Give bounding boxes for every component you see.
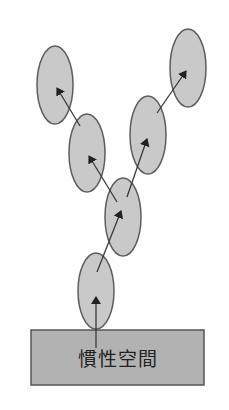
node-ellipse-n6 xyxy=(170,29,206,107)
node-ellipse-n4 xyxy=(37,46,73,124)
inertial-space-label: 慣性空間 xyxy=(31,330,204,385)
node-ellipse-n2 xyxy=(105,178,141,256)
node-ellipse-n3 xyxy=(69,114,105,192)
